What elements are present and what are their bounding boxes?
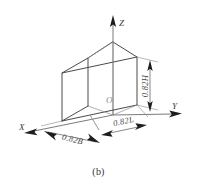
axis-y-line <box>113 114 172 115</box>
axis-x-arrowhead <box>24 129 37 136</box>
dim-width-label: 0.82B <box>61 132 84 147</box>
box-bottom-edge-left <box>62 106 88 121</box>
box-top-edge-interior <box>88 42 113 58</box>
box-top-face <box>62 42 137 73</box>
figure-caption: (b) <box>0 166 197 177</box>
dim-height-ext-top <box>137 57 158 62</box>
axes-group: Z Y X <box>18 15 182 135</box>
origin-label: O <box>106 95 113 105</box>
axis-y-label: Y <box>172 101 178 111</box>
dim-width-ext-near <box>90 115 99 130</box>
axonometric-drawing: Z Y X <box>0 0 197 175</box>
axis-z-label: Z <box>119 18 125 28</box>
dim-length-arrow-right <box>135 123 147 130</box>
dim-width-ext-far <box>41 121 62 126</box>
dim-height-label: 0.82H <box>140 74 150 97</box>
axis-x-label: X <box>18 122 25 132</box>
axis-x-line <box>34 115 113 131</box>
box-wireframe <box>62 42 137 121</box>
dim-length-arrow-left <box>101 130 113 137</box>
dim-height-ext-bottom <box>137 105 158 110</box>
dim-length-label: 0.82L <box>112 114 135 128</box>
dimension-height: 0.82H <box>137 57 158 112</box>
dim-length-ext-right <box>137 105 148 117</box>
figure-container: Z Y X <box>0 0 197 195</box>
box-bottom-edge-hidden-right <box>113 105 137 115</box>
